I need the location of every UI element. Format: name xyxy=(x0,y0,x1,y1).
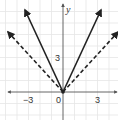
solid-line-left xyxy=(25,10,63,92)
y-axis-label: y xyxy=(65,4,71,15)
x-tick-3: 3 xyxy=(95,95,100,105)
x-tick-neg3: −3 xyxy=(23,95,33,105)
y-tick-3: 3 xyxy=(55,53,60,63)
solid-line-right xyxy=(63,10,101,92)
graph: y 3 −3 0 3 xyxy=(0,0,118,120)
vertex-point xyxy=(61,90,65,94)
x-tick-0: 0 xyxy=(56,95,61,105)
dashed-line-right xyxy=(63,32,118,92)
